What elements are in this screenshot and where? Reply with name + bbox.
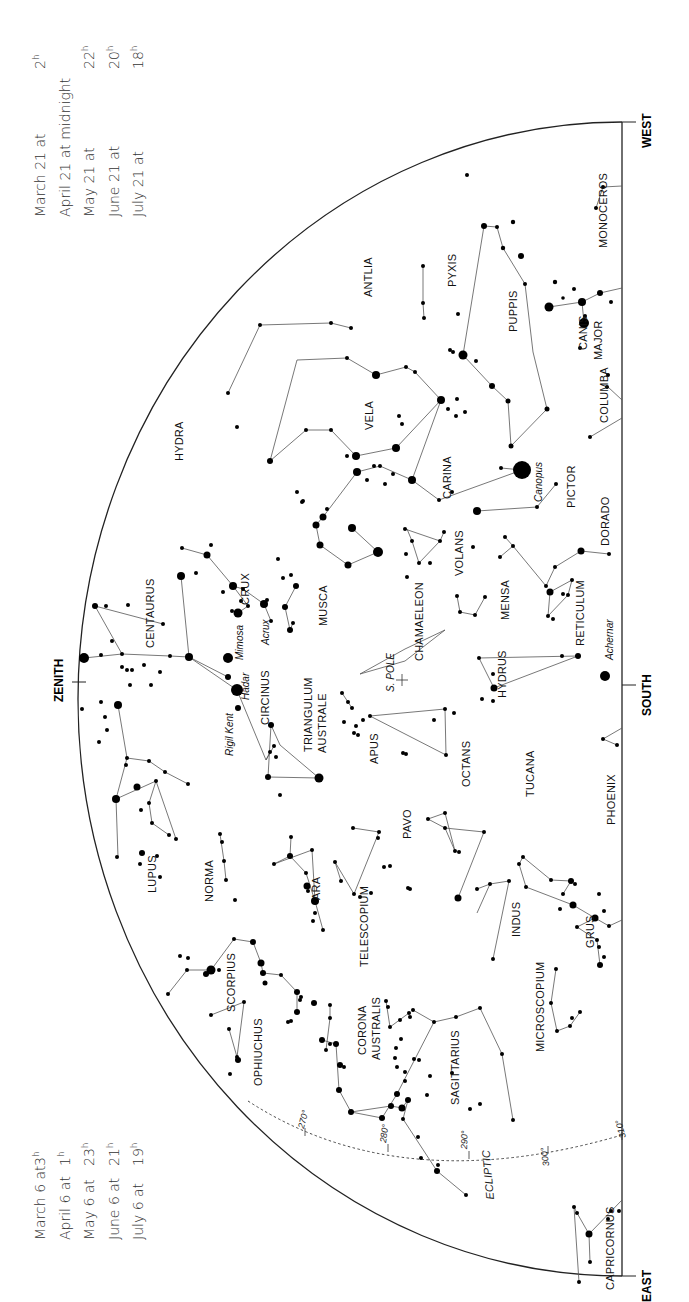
star-dot xyxy=(464,1193,468,1197)
constellation-line xyxy=(519,864,526,887)
star-dot xyxy=(394,1046,398,1050)
star-dot xyxy=(517,862,521,866)
star-dot xyxy=(166,992,170,996)
constellation-label: CHAMAELEON xyxy=(413,582,425,661)
star-dot xyxy=(384,999,388,1003)
time-row-hour: 3h xyxy=(33,1151,47,1166)
star-dot xyxy=(432,718,436,722)
star-dot xyxy=(120,652,124,656)
star-dot xyxy=(463,410,467,414)
star-dot xyxy=(134,784,141,791)
star-dot xyxy=(342,1065,346,1069)
star-dot xyxy=(120,665,124,669)
constellation-line xyxy=(412,400,441,480)
star-dot xyxy=(549,1001,553,1005)
star-dot xyxy=(317,542,324,549)
star-dot xyxy=(468,1107,472,1111)
star-dot xyxy=(561,592,565,596)
constellation-line xyxy=(412,480,439,500)
star-dot xyxy=(386,1005,390,1009)
star-dot xyxy=(425,1093,429,1097)
star-dot xyxy=(223,653,233,663)
star-dot xyxy=(230,609,234,613)
star-dot xyxy=(128,683,132,687)
star-dot xyxy=(372,464,376,468)
star-dot xyxy=(125,668,129,672)
star-dot xyxy=(597,290,603,296)
star-dot xyxy=(204,552,211,559)
star-dot xyxy=(158,875,162,879)
constellation-line xyxy=(548,595,568,616)
star-dot xyxy=(325,507,329,511)
constellation-line xyxy=(419,541,440,563)
time-row: April 21 at midnight xyxy=(58,78,72,217)
star-dot xyxy=(234,609,243,618)
constellation-line xyxy=(428,813,445,819)
constellation-line xyxy=(352,528,378,552)
star-dot xyxy=(547,589,554,596)
star-dot xyxy=(382,865,386,869)
star-dot xyxy=(329,428,333,432)
star-dot xyxy=(399,1037,403,1041)
constellation-line xyxy=(149,761,165,772)
time-row: July 6 at19h xyxy=(131,1183,145,1240)
time-row-date: April 6 at xyxy=(57,1176,73,1240)
star-dot xyxy=(289,835,293,839)
constellation-line xyxy=(182,548,207,555)
time-row: June 21 at20h xyxy=(107,146,121,217)
constellation-line xyxy=(376,367,406,375)
star-dot xyxy=(79,653,89,663)
star-dot xyxy=(294,1009,300,1015)
star-dot xyxy=(570,902,577,909)
star-dot xyxy=(142,663,146,667)
constellation-label: HYDRUS xyxy=(496,650,508,698)
star-dot xyxy=(478,1006,482,1010)
star-dot xyxy=(602,955,606,959)
constellation-line xyxy=(415,372,441,400)
constellation-label: NORMA xyxy=(203,860,215,902)
constellation-line xyxy=(285,586,296,607)
constellation-line xyxy=(386,1001,390,1027)
constellation-label: OCTANS xyxy=(460,741,472,787)
star-dot xyxy=(465,173,469,177)
time-row-date: April 21 at midnight xyxy=(57,78,73,217)
star-dot xyxy=(258,960,265,967)
star-dot xyxy=(333,860,337,864)
star-dot xyxy=(405,1097,411,1103)
star-dot xyxy=(365,478,369,482)
star-dot xyxy=(229,582,237,590)
star-dot xyxy=(408,1015,412,1019)
star-dot xyxy=(607,924,611,928)
constellation-line xyxy=(149,803,152,823)
constellation-line xyxy=(354,832,379,894)
constellation-line xyxy=(353,828,379,832)
constellation-line xyxy=(508,401,511,446)
star-dot xyxy=(416,1135,420,1139)
time-row-date: March 6 at xyxy=(32,1165,48,1240)
star-dot xyxy=(232,937,236,941)
star-dot xyxy=(104,604,108,608)
star-dot xyxy=(499,466,503,470)
star-dot xyxy=(92,603,98,609)
constellation-line xyxy=(95,606,122,654)
star-dot xyxy=(103,715,107,719)
star-name-label: Acrux xyxy=(260,619,271,645)
constellation-line xyxy=(550,580,572,592)
star-dot xyxy=(235,705,241,711)
star-dot xyxy=(586,1231,593,1238)
star-dot xyxy=(422,316,426,320)
constellation-line xyxy=(551,880,571,881)
constellation-label: DORADO xyxy=(599,497,611,546)
constellation-line xyxy=(456,1008,480,1017)
south-pole-cross-icon xyxy=(396,674,408,686)
constellation-line xyxy=(546,567,555,586)
constellation-line xyxy=(434,1017,456,1022)
star-dot xyxy=(452,711,456,715)
star-dot xyxy=(426,817,430,821)
constellation-line xyxy=(347,358,376,375)
time-row: June 6 at21h xyxy=(107,1178,121,1240)
star-dot xyxy=(378,464,382,468)
constellation-line xyxy=(533,352,547,409)
constellation-label: OPHIUCHUS xyxy=(252,1018,264,1086)
time-row: March 21 at2h xyxy=(33,134,47,217)
